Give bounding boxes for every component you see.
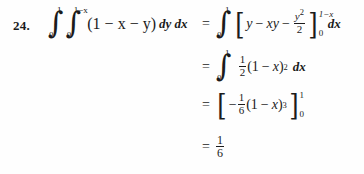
fraction-numerator: y2 xyxy=(294,11,305,23)
page-background: 24. ∫ 1 0 ∫ 1−x 0 (1 − x − y) dy dx = ∫ … xyxy=(0,0,364,174)
equals-sign: = xyxy=(197,139,215,155)
equals-sign: = xyxy=(197,97,215,113)
bracket-body: y − xy − y2 2 xyxy=(245,12,307,36)
fraction-y2-over-2: y2 2 xyxy=(294,11,305,35)
term-xy: xy xyxy=(266,16,278,32)
bracket-upper-limit: 1 xyxy=(300,91,305,100)
term-y: y xyxy=(246,16,252,32)
bracket-lower-limit: 0 xyxy=(319,29,324,38)
rhs-integral-upper-limit: 1 xyxy=(225,6,230,15)
leading-minus-sign: − xyxy=(229,97,237,113)
equals-sign: = xyxy=(197,16,215,32)
bracket-upper-limit: 1−x xyxy=(319,10,334,19)
integral-upper-limit: 1 xyxy=(225,49,230,58)
bracket-left: [ xyxy=(217,92,226,118)
minus-2: − xyxy=(282,16,290,32)
rhs-integral-lower-limit: 0 xyxy=(217,31,222,40)
bracket-left: [ xyxy=(235,11,244,37)
evaluation-bracket: [ y − xy − y2 2 ] 1−x xyxy=(234,11,319,37)
fraction-result-one-sixth: 1 6 xyxy=(216,134,224,160)
fraction-one-half: 1 2 xyxy=(239,54,247,78)
equation-line-4-result: = 1 6 xyxy=(197,134,225,160)
minus-1: − xyxy=(256,16,264,32)
inner-integral-upper-limit: 1−x xyxy=(74,6,88,15)
evaluation-bracket: [ − 1 6 ( 1 − x )3 ] 1 xyxy=(216,92,300,118)
minus-sign: − xyxy=(262,59,270,75)
close-paren: ) xyxy=(279,59,284,75)
integral-lower-limit: 0 xyxy=(217,74,222,83)
fraction-numerator: 1 xyxy=(239,54,247,66)
bracket-lower-limit: 0 xyxy=(300,110,305,119)
problem-number: 24. xyxy=(13,18,30,34)
fraction-denominator: 2 xyxy=(294,23,305,36)
close-paren: ) xyxy=(278,97,283,113)
numerator-exponent: 2 xyxy=(300,8,304,18)
outer-integral-sign: ∫ 1 0 xyxy=(48,9,64,39)
minus-sign: − xyxy=(261,97,269,113)
differential: dx xyxy=(293,59,306,75)
differentials: dy dx xyxy=(159,16,188,32)
constant-one: 1 xyxy=(251,97,258,113)
fraction-one-sixth: 1 6 xyxy=(238,92,246,116)
equation-line-1-lhs: ∫ 1 0 ∫ 1−x 0 (1 − x − y) dy dx xyxy=(47,9,188,39)
integrand: (1 − x − y) xyxy=(87,15,156,33)
inner-integral-sign: ∫ 1−x 0 xyxy=(66,9,82,39)
equation-line-3: = [ − 1 6 ( 1 − x )3 ] xyxy=(197,92,301,118)
integral-sign: ∫ 1 0 xyxy=(216,52,232,82)
outer-integral-lower-limit: 0 xyxy=(49,31,54,40)
fraction-numerator: 1 xyxy=(216,134,224,147)
equation-line-2: = ∫ 1 0 1 2 ( 1 − x )2 dx xyxy=(197,52,306,82)
fraction-denominator: 6 xyxy=(216,146,224,160)
fraction-denominator: 2 xyxy=(239,66,247,79)
equals-sign: = xyxy=(197,59,215,75)
fraction-numerator: 1 xyxy=(238,92,246,104)
inner-integral-lower-limit: 0 xyxy=(67,31,72,40)
constant-one: 1 xyxy=(252,59,259,75)
outer-integral-upper-limit: 1 xyxy=(57,6,62,15)
rhs-integral-sign: ∫ 1 0 xyxy=(216,9,232,39)
bracket-body: − 1 6 ( 1 − x )3 xyxy=(228,93,288,117)
equation-line-1-rhs: = ∫ 1 0 [ y − xy − y2 xyxy=(197,9,341,39)
bracket-right: ] xyxy=(308,11,317,37)
fraction-denominator: 6 xyxy=(238,104,246,117)
bracket-right: ] xyxy=(289,92,298,118)
